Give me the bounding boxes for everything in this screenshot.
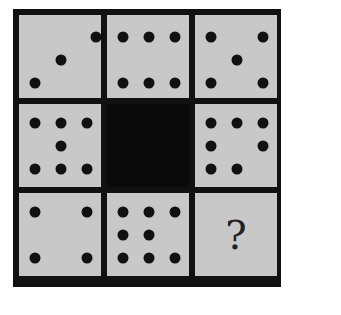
dot-icon (82, 118, 93, 129)
dot-icon (258, 32, 269, 43)
dot-icon (144, 230, 155, 241)
dot-icon (144, 207, 155, 218)
dot-icon (56, 164, 67, 175)
question-mark: ? (195, 193, 277, 276)
dot-icon (206, 141, 217, 152)
dot-icon (206, 164, 217, 175)
dot-icon (82, 207, 93, 218)
dot-icon (56, 55, 67, 66)
dot-icon (144, 253, 155, 264)
dot-icon (144, 32, 155, 43)
dot-icon (232, 55, 243, 66)
dot-icon (206, 118, 217, 129)
dot-icon (170, 207, 181, 218)
dot-icon (118, 253, 129, 264)
dot-icon (56, 141, 67, 152)
dot-cell-r3c2 (107, 193, 189, 276)
dot-icon (258, 141, 269, 152)
dot-icon (258, 78, 269, 89)
dot-icon (144, 78, 155, 89)
dot-icon (232, 118, 243, 129)
dot-cell-r1c3 (195, 15, 277, 98)
dot-icon (30, 253, 41, 264)
dot-icon (82, 164, 93, 175)
dot-icon (206, 78, 217, 89)
dot-icon (170, 32, 181, 43)
dot-cell-r2c3 (195, 104, 277, 187)
puzzle-grid: ? (13, 9, 281, 287)
dot-icon (82, 253, 93, 264)
dot-cell-r3c1 (19, 193, 101, 276)
dot-icon (118, 32, 129, 43)
dot-icon (206, 32, 217, 43)
dot-icon (258, 118, 269, 129)
dot-icon (30, 118, 41, 129)
dot-cell-r1c1 (19, 15, 101, 98)
dot-cell-r1c2 (107, 15, 189, 98)
dot-cell-r2c1 (19, 104, 101, 187)
dot-icon (232, 164, 243, 175)
dot-icon (170, 78, 181, 89)
dot-icon (30, 207, 41, 218)
dot-icon (30, 78, 41, 89)
dot-icon (118, 207, 129, 218)
dot-icon (56, 118, 67, 129)
answer-cell[interactable]: ? (195, 193, 277, 276)
center-black-cell (107, 104, 189, 187)
dot-icon (118, 78, 129, 89)
dot-icon (91, 32, 102, 43)
dot-icon (170, 253, 181, 264)
dot-icon (118, 230, 129, 241)
dot-icon (30, 164, 41, 175)
